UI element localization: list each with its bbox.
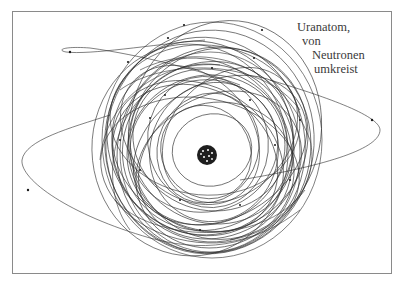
caption-line-3: Neutronen (312, 48, 365, 62)
figure-caption: Uranatom, von Neutronen umkreist (297, 20, 365, 76)
caption-line-2: von (302, 34, 365, 48)
uranium-nucleus (197, 145, 217, 165)
caption-line-1: Uranatom, (297, 20, 365, 34)
caption-line-4: umkreist (314, 62, 365, 76)
